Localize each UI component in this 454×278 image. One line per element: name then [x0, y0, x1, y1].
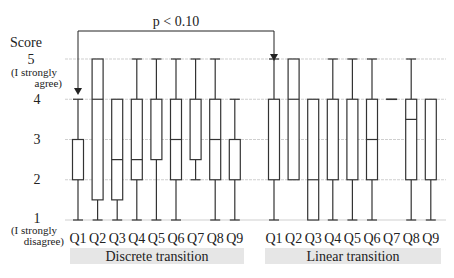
box-q3 [308, 99, 319, 220]
box-q7 [190, 59, 201, 180]
box-q3 [112, 99, 123, 220]
box-q6 [367, 59, 378, 220]
y-axis-title: Score [10, 35, 42, 50]
box-q8 [210, 59, 221, 220]
x-tick-label: Q5 [148, 231, 165, 246]
box-q1 [73, 99, 84, 220]
x-tick-label: Q6 [363, 231, 380, 246]
arrow-down-icon [270, 54, 278, 61]
y-tick-3: 3 [34, 132, 41, 147]
box-q6 [171, 59, 182, 220]
p-value-label: p < 0.10 [153, 14, 199, 29]
box-q8 [406, 59, 417, 220]
x-tick-label: Q7 [187, 231, 204, 246]
group-label-linear: Linear transition [307, 249, 400, 264]
y-axis-labels: Score 5 (I strongly agree) 4 3 2 1 (I st… [10, 35, 64, 248]
box-q5 [347, 59, 358, 220]
box-q9 [425, 99, 436, 220]
arrow-down-icon [74, 88, 82, 95]
x-tick-label: Q6 [167, 231, 184, 246]
y-tick-2: 2 [34, 172, 41, 187]
x-tick-label: Q1 [69, 231, 86, 246]
x-tick-label: Q5 [344, 231, 361, 246]
box-q2 [92, 59, 103, 220]
y-tick-5: 5 [28, 52, 35, 67]
box-q2 [288, 59, 299, 180]
x-tick-label: Q4 [324, 231, 341, 246]
x-tick-label: Q2 [89, 231, 106, 246]
x-axis-labels: Q1Q2Q3Q4Q5Q6Q7Q8Q9Q1Q2Q3Q4Q5Q6Q7Q8Q9 [69, 231, 439, 246]
x-tick-label: Q7 [383, 231, 400, 246]
x-tick-label: Q3 [305, 231, 322, 246]
box-q1 [269, 59, 280, 220]
y-tick-4: 4 [34, 92, 41, 107]
group-labels: Discrete transition Linear transition [70, 248, 441, 264]
x-tick-label: Q8 [207, 231, 224, 246]
y-tick-1-sublabel-2: disagree) [24, 235, 65, 248]
x-tick-label: Q9 [422, 231, 439, 246]
y-tick-5-sublabel-2: agree) [35, 77, 63, 90]
x-tick-label: Q8 [403, 231, 420, 246]
box-q9 [229, 99, 240, 220]
box-q5 [151, 59, 162, 220]
boxplot-chart: p < 0.10 Score 5 (I strongly agree) 4 3 … [0, 0, 454, 278]
x-tick-label: Q3 [109, 231, 126, 246]
x-tick-label: Q1 [265, 231, 282, 246]
x-tick-label: Q9 [226, 231, 243, 246]
box-q4 [327, 59, 338, 220]
box-q4 [131, 59, 142, 220]
x-tick-label: Q2 [285, 231, 302, 246]
x-tick-label: Q4 [128, 231, 145, 246]
group-label-discrete: Discrete transition [105, 249, 208, 264]
